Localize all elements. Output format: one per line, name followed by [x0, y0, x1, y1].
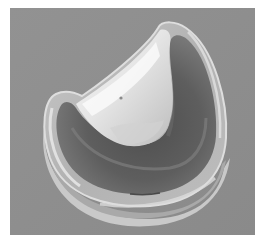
- photo-frame: [10, 8, 255, 235]
- component-photo: [10, 8, 255, 235]
- wall-speck: [119, 96, 122, 99]
